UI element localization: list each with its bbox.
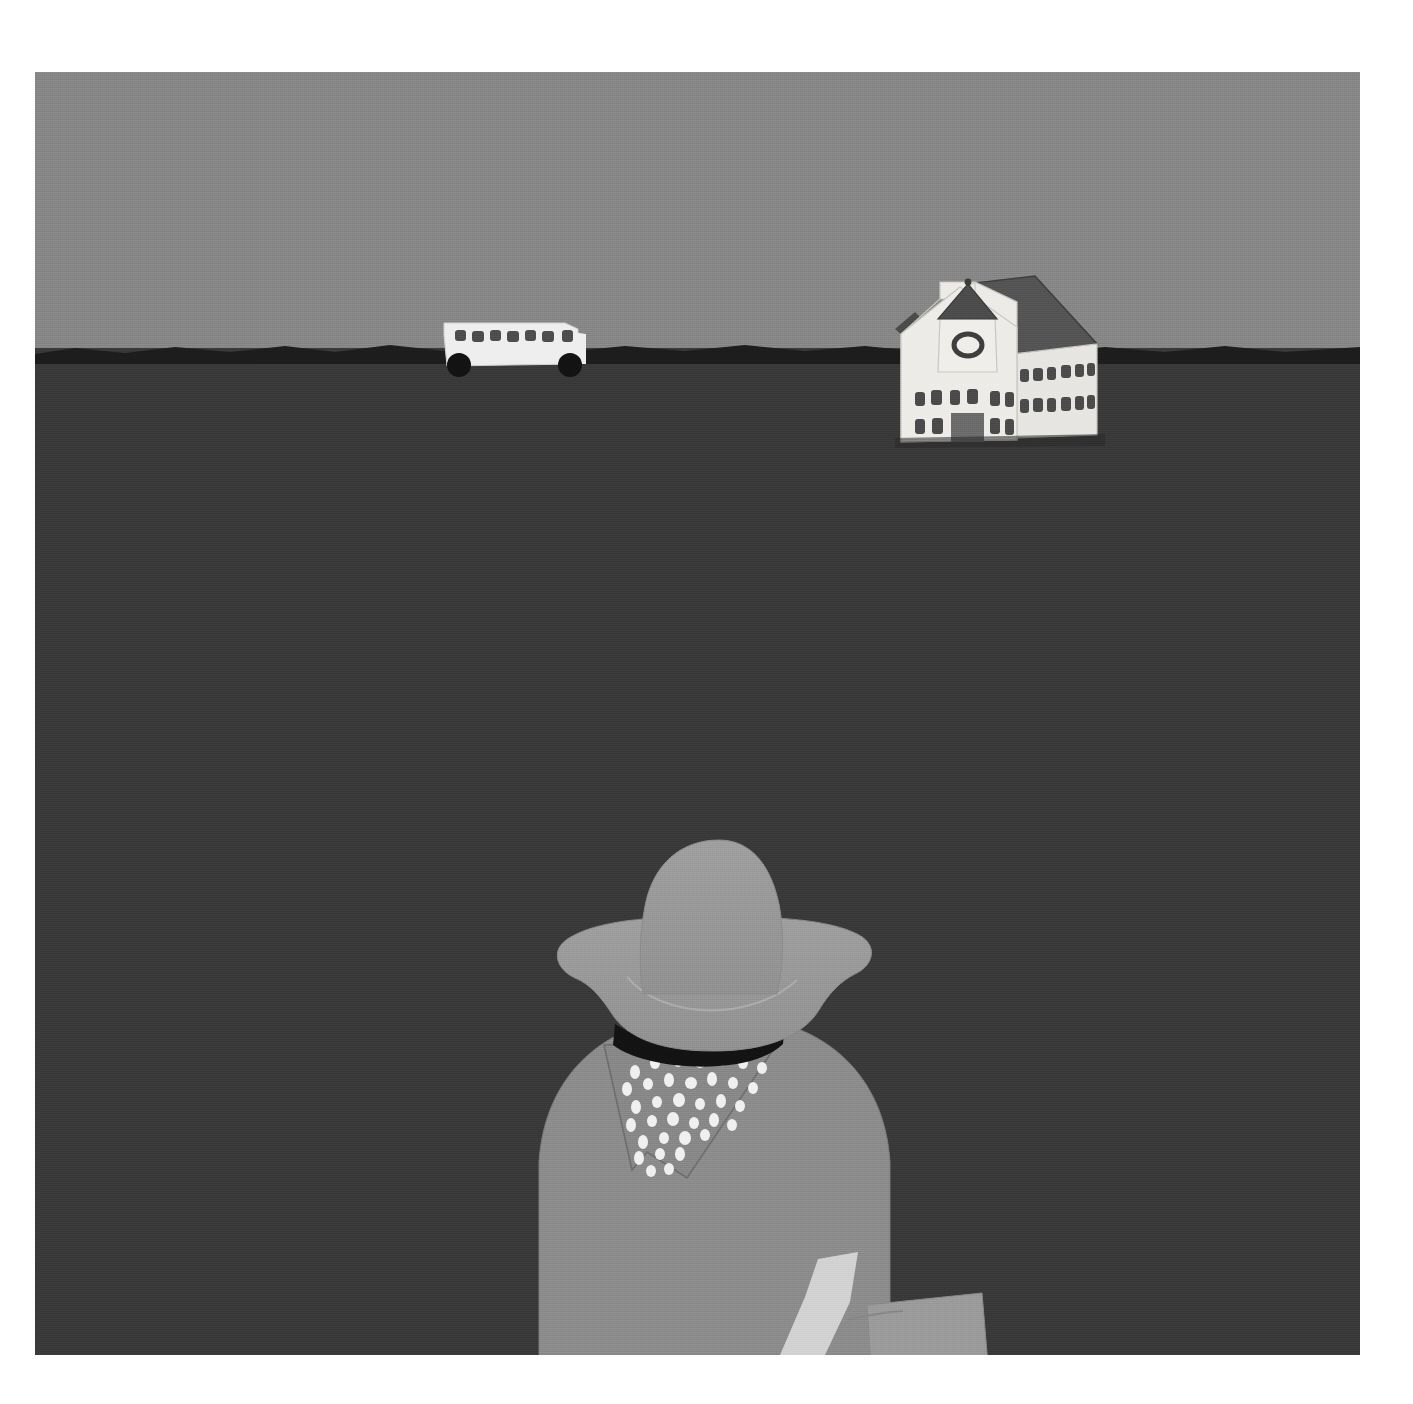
artwork-canvas [35,72,1360,1355]
artwork-svg [35,72,1360,1355]
canvas-texture-veil [35,72,1360,1355]
page-root [0,0,1413,1404]
